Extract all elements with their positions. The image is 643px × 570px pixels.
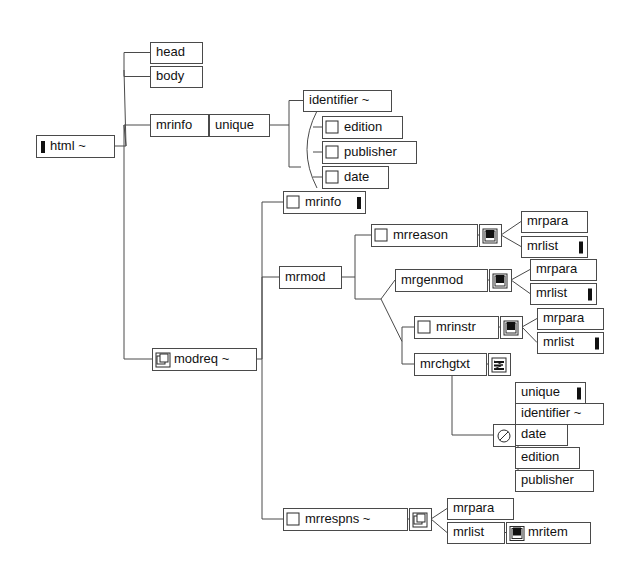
node-label: mrlist bbox=[453, 524, 484, 539]
edge-modreq-mrrespns bbox=[262, 359, 283, 519]
node-label: modreq ~ bbox=[174, 351, 230, 366]
tree-node-mrchgtxt-ic[interactable] bbox=[489, 354, 511, 376]
node-label: mritem bbox=[528, 524, 568, 539]
node-label: head bbox=[156, 44, 185, 59]
tree-node-edition1[interactable]: edition bbox=[323, 117, 403, 139]
tree-node-mrgenmod[interactable]: mrgenmod bbox=[396, 270, 488, 292]
tree-node-mrreason-ic[interactable] bbox=[480, 225, 502, 247]
tree-node-modreq[interactable]: modreq ~ bbox=[153, 349, 257, 371]
edge-modreq-mrmod bbox=[262, 277, 279, 359]
tree-node-mrpara2[interactable]: mrpara bbox=[531, 260, 597, 281]
edge-mrmod-lower-fan bbox=[381, 299, 402, 342]
node-label: date bbox=[344, 169, 369, 184]
tree-node-slash-ic[interactable] bbox=[494, 425, 516, 447]
tree-node-mrlist3[interactable]: mrlist bbox=[538, 333, 604, 354]
edge-mrmod-mrgenmod bbox=[381, 280, 395, 299]
edge-html-body bbox=[124, 70, 150, 77]
node-label: mrpara bbox=[527, 213, 569, 228]
tree-node-mrinstr[interactable]: mrinstr bbox=[415, 317, 499, 339]
tree-node-mrlist1[interactable]: mrlist bbox=[522, 237, 588, 258]
edge-html-mrinfo bbox=[124, 125, 150, 146]
edge-mrgenmod-ic-mrlist2 bbox=[511, 280, 530, 294]
tree-node-mrgenmod-ic[interactable] bbox=[490, 270, 512, 292]
node-label: body bbox=[156, 68, 185, 83]
tree-node-mrinfo2[interactable]: mrinfo bbox=[284, 192, 366, 214]
tree-node-html[interactable]: html ~ bbox=[37, 136, 115, 158]
tree-node-edition2[interactable]: edition bbox=[516, 448, 580, 469]
square-in-square-icon bbox=[483, 229, 497, 243]
tree-node-mrlist4[interactable]: mrlist bbox=[448, 523, 505, 544]
tree-node-mrpara1[interactable]: mrpara bbox=[522, 212, 588, 233]
edge-mrmod-fan-stem bbox=[355, 277, 381, 299]
node-label: mrgenmod bbox=[401, 272, 463, 287]
tree-nodes-layer: html ~headbodymrinfouniqueidentifier ~ed… bbox=[37, 43, 604, 544]
node-label: identifier ~ bbox=[309, 92, 370, 107]
tree-node-unique1[interactable]: unique bbox=[210, 115, 270, 137]
edge-html-modreq bbox=[124, 125, 152, 359]
copy-icon bbox=[156, 353, 170, 367]
node-label: date bbox=[521, 426, 546, 441]
tree-node-publisher1[interactable]: publisher bbox=[323, 142, 417, 164]
node-label: mrlist bbox=[543, 334, 574, 349]
prohibited-icon bbox=[498, 430, 510, 442]
node-label: mrlist bbox=[536, 285, 567, 300]
tree-node-publisher2[interactable]: publisher bbox=[516, 471, 594, 492]
node-label: unique bbox=[521, 384, 560, 399]
edge-mrrespns-ic-mrlist4 bbox=[431, 519, 447, 533]
checkbox-icon bbox=[375, 229, 387, 241]
node-label: mrmod bbox=[285, 269, 325, 284]
edge-mrinstr-ic-mrlist3 bbox=[522, 327, 537, 343]
bar-icon bbox=[577, 388, 581, 400]
tree-node-unique2[interactable]: unique bbox=[516, 383, 586, 404]
tree-node-head[interactable]: head bbox=[151, 43, 203, 64]
bar-icon bbox=[579, 242, 583, 254]
checkbox-icon bbox=[287, 513, 299, 525]
tree-node-mrinstr-ic[interactable] bbox=[501, 317, 523, 339]
node-label: mrinfo bbox=[156, 117, 192, 132]
node-label: mrchgtxt bbox=[420, 356, 470, 371]
edge-unique-identifier bbox=[289, 101, 303, 126]
checkbox-icon bbox=[326, 146, 338, 158]
bar-icon bbox=[595, 338, 599, 350]
tree-node-mrmod[interactable]: mrmod bbox=[280, 267, 342, 289]
tree-node-mrchgtxt[interactable]: mrchgtxt bbox=[415, 354, 487, 376]
node-label: publisher bbox=[521, 472, 574, 487]
tree-node-identifier2[interactable]: identifier ~ bbox=[516, 404, 604, 425]
diagram-canvas: html ~headbodymrinfouniqueidentifier ~ed… bbox=[0, 0, 643, 570]
tree-node-mrpara4[interactable]: mrpara bbox=[448, 499, 514, 520]
tree-node-date2[interactable]: date bbox=[516, 425, 568, 446]
tree-node-identifier1[interactable]: identifier ~ bbox=[304, 91, 392, 112]
edge-mrchgtxt-slash bbox=[452, 375, 493, 435]
node-label: mrinfo bbox=[305, 194, 341, 209]
tree-node-mrpara3[interactable]: mrpara bbox=[538, 309, 604, 330]
node-label: publisher bbox=[344, 144, 397, 159]
copy-icon bbox=[413, 513, 427, 527]
tree-node-mrinfo1[interactable]: mrinfo bbox=[151, 115, 209, 137]
edge-mrrespns-ic-mrpara4 bbox=[431, 509, 447, 520]
square-in-square-icon bbox=[504, 321, 518, 335]
tree-node-mritem[interactable]: mritem bbox=[507, 523, 591, 544]
checkbox-icon bbox=[326, 171, 338, 183]
node-label: mrinstr bbox=[436, 319, 476, 334]
node-label: unique bbox=[215, 117, 254, 132]
node-label: mrreason bbox=[393, 227, 448, 242]
tree-node-date1[interactable]: date bbox=[323, 167, 389, 189]
edge-mrinstr-ic-mrpara3 bbox=[522, 319, 537, 328]
tree-node-body[interactable]: body bbox=[151, 67, 203, 88]
checkbox-icon bbox=[287, 196, 299, 208]
bar-icon bbox=[41, 141, 45, 153]
node-label: html ~ bbox=[50, 138, 86, 153]
edge-mrreason-ic-mrpara1 bbox=[501, 222, 521, 236]
tree-node-mrrespns[interactable]: mrrespns ~ bbox=[284, 509, 408, 531]
tree-node-mrlist2[interactable]: mrlist bbox=[531, 284, 597, 305]
square-in-square-icon bbox=[510, 527, 524, 541]
checkbox-icon bbox=[418, 321, 430, 333]
square-in-square-icon bbox=[493, 274, 507, 288]
tree-node-mrrespns-ic[interactable] bbox=[410, 509, 432, 531]
tree-node-mrreason[interactable]: mrreason bbox=[372, 225, 478, 247]
node-label: mrpara bbox=[453, 500, 495, 515]
bar-icon bbox=[357, 197, 361, 209]
lines-icon bbox=[492, 358, 506, 372]
tree-diagram: html ~headbodymrinfouniqueidentifier ~ed… bbox=[0, 0, 643, 570]
bar-icon bbox=[588, 289, 592, 301]
